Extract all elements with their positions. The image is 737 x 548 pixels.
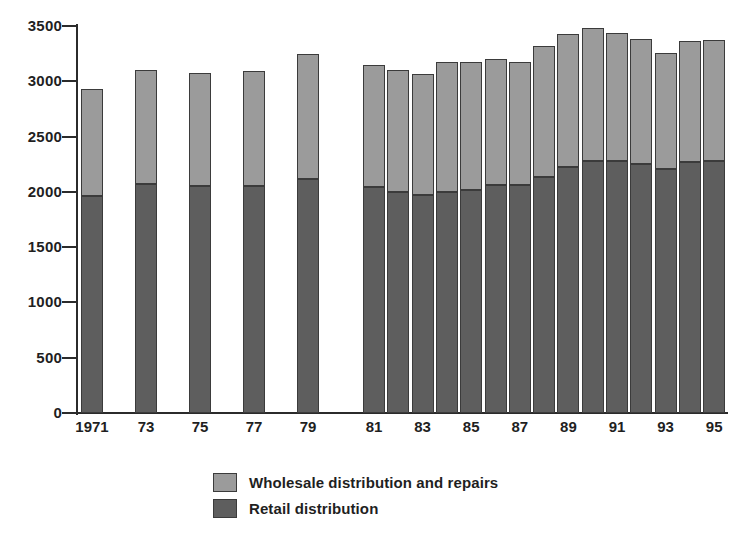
bar-1977 [243,71,265,413]
bar-1983 [412,74,434,413]
legend-label: Wholesale distribution and repairs [249,474,498,491]
bar-1989 [557,34,579,413]
bar-1973 [135,70,157,413]
bar-1987 [509,62,531,413]
y-axis-tick [62,25,76,27]
bar-segment-retail [189,186,211,413]
bar-segment-wholesale [363,65,385,188]
bar-segment-wholesale [412,74,434,195]
stacked-bar-chart: 0500100015002000250030003500 19717375777… [0,0,737,548]
y-axis-tick [62,301,76,303]
bar-segment-wholesale [630,39,652,163]
bar-segment-retail [363,187,385,413]
bar-segment-retail [412,195,434,413]
bar-1988 [533,46,555,413]
y-axis-tick-label: 3500 [4,18,62,33]
bar-segment-wholesale [460,62,482,189]
y-axis-tick [62,191,76,193]
bar-segment-wholesale [297,54,319,178]
bar-segment-retail [297,179,319,413]
x-axis-tick-label: 95 [684,419,737,434]
y-axis-tick-label: 0 [4,405,62,420]
bar-segment-retail [243,186,265,413]
y-axis-tick [62,136,76,138]
bars-container [76,20,728,413]
y-axis-ticks: 0500100015002000250030003500 [0,0,62,548]
bar-segment-retail [509,185,531,413]
y-axis-tick-label: 3000 [4,73,62,88]
bar-1986 [485,59,507,413]
bar-segment-wholesale [81,89,103,196]
bar-segment-retail [135,184,157,413]
x-axis-tick-label: 79 [278,419,338,434]
y-axis-tick [62,357,76,359]
bar-1991 [606,33,628,413]
bar-segment-wholesale [436,62,458,191]
bar-segment-retail [81,196,103,413]
bar-segment-wholesale [485,59,507,185]
bar-1971 [81,89,103,413]
bar-segment-retail [533,177,555,413]
y-axis-tick [62,246,76,248]
bar-segment-wholesale [135,70,157,184]
bar-1992 [630,39,652,413]
x-axis-tick-label: 73 [116,419,176,434]
x-axis-tick-label: 77 [224,419,284,434]
bar-segment-wholesale [189,73,211,186]
bar-segment-wholesale [606,33,628,161]
bar-1993 [655,53,677,413]
bar-segment-wholesale [679,41,701,162]
bar-segment-retail [387,192,409,413]
bar-1990 [582,28,604,413]
y-axis-tick-label: 1500 [4,239,62,254]
bar-1994 [679,41,701,413]
bar-segment-retail [703,161,725,413]
bar-segment-wholesale [509,62,531,185]
bar-segment-wholesale [243,71,265,186]
bar-segment-wholesale [655,53,677,170]
x-axis-labels: 1971737577798183858789919395 [76,419,728,445]
y-axis-tick-label: 500 [4,350,62,365]
bar-1982 [387,70,409,413]
chart-legend: Wholesale distribution and repairsRetail… [213,473,633,525]
bar-1985 [460,62,482,413]
legend-label: Retail distribution [249,500,378,517]
x-axis-tick-label: 1971 [62,419,122,434]
bar-segment-retail [582,161,604,413]
bar-segment-retail [485,185,507,413]
bar-segment-retail [460,190,482,413]
y-axis-tick-label: 1000 [4,294,62,309]
bar-1981 [363,65,385,413]
y-axis-tick-label: 2000 [4,184,62,199]
bar-segment-retail [655,169,677,413]
bar-1979 [297,54,319,413]
bar-1975 [189,73,211,413]
bar-segment-wholesale [557,34,579,167]
legend-swatch-icon [213,473,237,492]
x-axis-tick-label: 75 [170,419,230,434]
bar-segment-wholesale [533,46,555,177]
y-axis-tick-label: 2500 [4,129,62,144]
bar-segment-retail [630,164,652,413]
bar-segment-retail [606,161,628,413]
y-axis-tick [62,80,76,82]
bar-segment-wholesale [703,40,725,161]
legend-item: Wholesale distribution and repairs [213,473,633,492]
bar-1995 [703,40,725,413]
bar-1984 [436,62,458,413]
y-axis-tick [62,412,76,414]
bar-segment-retail [436,192,458,413]
legend-swatch-icon [213,499,237,518]
bar-segment-wholesale [387,70,409,192]
bar-segment-wholesale [582,28,604,161]
legend-item: Retail distribution [213,499,633,518]
bar-segment-retail [557,167,579,413]
bar-segment-retail [679,162,701,413]
